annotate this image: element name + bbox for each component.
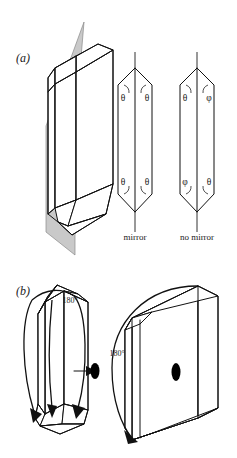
angle-label-bottom-left: θ [121,177,126,187]
panel-b: (b) [16,284,218,444]
two-fold-axis-ellipse [91,363,100,379]
crystal-symmetry-figure: (a) [0,0,237,458]
angle-label-top-right: θ [145,93,150,103]
mirror-plane-crystal [46,22,113,255]
rot-prism-back-face [38,302,45,414]
rotation-prism: 180° [24,285,100,434]
angle-label-top-left: θ [121,93,126,103]
panel-b-label: (b) [16,284,30,298]
panel-a: (a) [16,22,214,255]
rotation-label-right: 180° [109,349,124,358]
figure-root: (a) [0,0,237,458]
prism-mirror: θ θ θ θ mirror [118,52,152,242]
angle-label-bottom-right: θ [145,177,150,187]
two-fold-axis-ellipse [172,363,181,381]
panel-a-label: (a) [16,51,30,65]
rot-prism-right-face [64,291,88,410]
angle-label-top-right: φ [206,93,212,103]
angle-label-bottom-right: θ [207,177,212,187]
rotation-label-left: 180° [62,296,77,305]
crystal-back-long-face [48,84,55,214]
angle-label-top-left: θ [183,93,188,103]
slab-left-edge-face [125,318,132,440]
angle-label-bottom-left: φ [182,177,188,187]
prism-mirror-caption: mirror [124,232,147,242]
rot-arrow-front-curve [24,300,34,412]
prism-no-mirror-caption: no mirror [180,232,214,242]
rot-prism-left-face [45,291,64,414]
prism-no-mirror: θ φ φ θ no mirror [180,52,214,242]
crystal-right-face [76,50,113,200]
crystal-left-face [55,72,76,208]
rotation-slab: 180° [109,286,218,444]
slab-right-face [198,286,218,418]
